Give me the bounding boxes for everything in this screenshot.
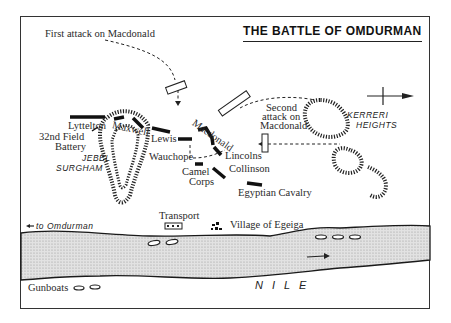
kerreri-label: KERRERI: [347, 111, 388, 120]
transport-icon: [165, 223, 182, 229]
north-arrow-icon: [367, 87, 414, 105]
gunboats-legend-icon: [74, 285, 100, 290]
map-title: THE BATTLE OF OMDURMAN: [243, 24, 422, 42]
nile-label: N I L E: [255, 280, 309, 291]
gunboats-label: Gunboats: [28, 283, 68, 294]
transport-label: Transport: [159, 211, 199, 222]
wauchope-label: Wauchope: [149, 152, 193, 163]
surgham-label: SURGHAM: [56, 164, 103, 173]
second-attack-label-3: Macdonald: [260, 121, 307, 132]
camel-corps-label-2: Corps: [189, 177, 214, 188]
field-battery-label-2: Battery: [55, 142, 86, 153]
battle-map: [0, 0, 451, 323]
first-attack-route: [105, 40, 175, 80]
to-omdurman-arrow-icon: [26, 224, 34, 228]
collinson-bar: [213, 168, 225, 178]
to-omdurman-label: to Omdurman: [36, 222, 93, 231]
egyptian-cavalry-bar: [247, 183, 262, 185]
first-attack-label: First attack on Macdonald: [45, 29, 155, 40]
village-label: Village of Egeiga: [230, 220, 303, 231]
collinson-label: Collinson: [229, 164, 270, 175]
village-icon: [211, 222, 222, 230]
jebel-label: JEBEL: [82, 154, 111, 163]
first-attack-force-marker: [166, 81, 187, 94]
first-attack-arrowhead-icon: [175, 101, 181, 106]
lewis-label: Lewis: [151, 134, 177, 145]
lyttelton-label: Lyttelton: [68, 121, 106, 132]
nile-river: [21, 225, 430, 280]
second-attack-force-marker-2: [262, 134, 268, 152]
second-attack-force-marker: [218, 91, 250, 116]
heights-label: HEIGHTS: [356, 121, 397, 130]
egyptian-cavalry-label: Egyptian Cavalry: [238, 188, 312, 199]
lewis-brigade-bar: [152, 128, 170, 132]
lincolns-label: Lincolns: [225, 151, 262, 162]
